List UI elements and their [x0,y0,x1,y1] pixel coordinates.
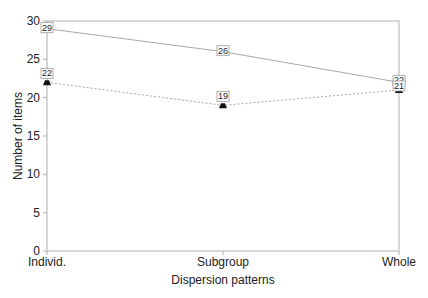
data-label: 21 [394,81,404,91]
series-1: 292622 [41,23,405,86]
y-tick-label: 5 [33,206,40,220]
y-tick-label: 20 [27,91,41,105]
y-tick-label: 15 [27,129,41,143]
data-label: 19 [218,91,228,101]
triangle-marker-icon [219,103,227,108]
x-tick-label: Subgroup [197,255,249,269]
y-tick-label: 30 [27,14,41,28]
line-chart: 051015202530 Individ.SubgroupWhole 29262… [0,0,428,298]
y-tick-label: 10 [27,167,41,181]
y-axis-title: Number of items [11,92,25,180]
x-tick-label: Individ. [28,255,66,269]
series-group: 292622221921 [41,23,405,109]
y-tick-label: 25 [27,52,41,66]
data-label: 26 [218,46,228,56]
x-axis: Individ.SubgroupWhole [28,251,416,269]
triangle-marker-icon [43,80,51,85]
data-label: 29 [42,23,52,33]
data-label: 22 [42,68,52,78]
x-axis-title: Dispersion patterns [171,273,274,287]
x-tick-label: Whole [382,255,416,269]
y-axis: 051015202530 [27,14,47,258]
